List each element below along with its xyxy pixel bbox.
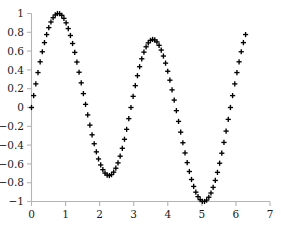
y-tick-label: −1 [9,195,24,207]
x-tick-label: 1 [62,208,69,220]
y-tick-label: 0.2 [7,82,24,94]
x-tick-label: 2 [96,208,103,220]
x-tick-label: 4 [164,208,171,220]
chart-figure: 01234567 −1−0.8−0.6−0.4−0.200.20.40.60.8… [0,0,281,235]
plot-background [0,0,281,235]
y-tick-label: 0 [17,101,24,113]
y-tick-label: 0.8 [7,26,24,38]
x-tick-label: 0 [28,208,35,220]
scatter-plot-canvas: 01234567 −1−0.8−0.6−0.4−0.200.20.40.60.8… [0,0,281,235]
y-tick-label: −0.8 [0,176,24,188]
y-tick-label: 0.6 [7,45,24,57]
y-tick-label: −0.6 [0,158,24,170]
x-tick-label: 3 [130,208,137,220]
y-tick-label: 1 [17,7,24,19]
y-tick-label: −0.4 [0,139,24,151]
x-tick-label: 7 [267,208,274,220]
y-tick-label: 0.4 [7,64,24,76]
y-tick-label: −0.2 [0,120,24,132]
x-tick-label: 6 [233,208,240,220]
x-tick-label: 5 [199,208,206,220]
